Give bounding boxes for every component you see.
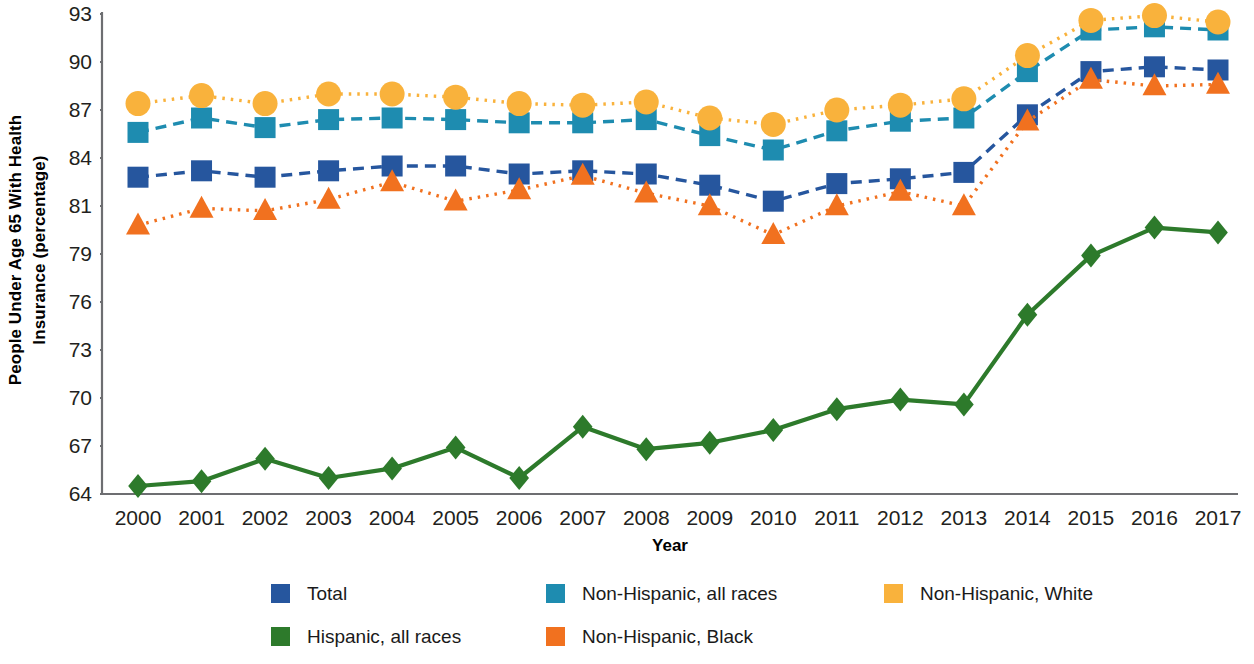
axis-lines bbox=[100, 12, 1238, 494]
series-line bbox=[138, 27, 1218, 150]
series-5 bbox=[126, 67, 1230, 244]
data-point-marker bbox=[382, 456, 402, 480]
data-point-marker bbox=[826, 173, 847, 194]
data-point-marker bbox=[253, 91, 278, 116]
series-line bbox=[138, 80, 1218, 235]
data-point-marker bbox=[445, 109, 466, 130]
y-tick-label: 67 bbox=[48, 435, 92, 456]
data-point-marker bbox=[128, 122, 149, 143]
data-point-marker bbox=[698, 193, 722, 215]
x-tick-label: 2007 bbox=[559, 503, 606, 533]
data-point-marker bbox=[444, 188, 468, 210]
data-point-marker bbox=[382, 108, 403, 129]
x-tick-label: 2006 bbox=[496, 503, 543, 533]
x-tick-label: 2000 bbox=[115, 503, 162, 533]
y-tick-label: 84 bbox=[48, 147, 92, 168]
data-point-marker bbox=[763, 191, 784, 212]
x-axis-title: Year bbox=[0, 536, 1254, 556]
data-point-marker bbox=[888, 93, 913, 118]
legend-item[interactable]: Total bbox=[271, 584, 347, 603]
data-point-marker bbox=[191, 160, 212, 181]
data-point-marker bbox=[1142, 3, 1167, 28]
legend-label: Non-Hispanic, Black bbox=[582, 627, 753, 646]
legend-swatch-icon bbox=[271, 584, 290, 603]
legend-item[interactable]: Non-Hispanic, all races bbox=[546, 584, 777, 603]
data-point-marker bbox=[573, 415, 593, 439]
data-point-marker bbox=[255, 117, 276, 138]
data-point-marker bbox=[192, 469, 212, 493]
x-axis-tick-labels: 2000200120022003200420052006200720082009… bbox=[100, 503, 1240, 537]
series-3 bbox=[126, 3, 1231, 137]
data-point-marker bbox=[128, 167, 149, 188]
chart-page: People Under Age 65 With Health Insuranc… bbox=[0, 0, 1254, 664]
data-point-marker bbox=[446, 436, 466, 460]
x-tick-label: 2010 bbox=[750, 503, 797, 533]
data-point-marker bbox=[636, 437, 656, 461]
data-point-marker bbox=[699, 175, 720, 196]
data-point-marker bbox=[953, 162, 974, 183]
y-tick-label: 64 bbox=[48, 483, 92, 504]
x-tick-label: 2009 bbox=[686, 503, 733, 533]
data-point-marker bbox=[316, 82, 341, 107]
x-tick-label: 2002 bbox=[242, 503, 289, 533]
y-tick-label: 93 bbox=[48, 3, 92, 24]
y-axis-tick-labels: 9390878481797673706764 bbox=[48, 0, 92, 500]
data-point-marker bbox=[255, 447, 275, 471]
y-tick-label: 70 bbox=[48, 387, 92, 408]
x-tick-label: 2011 bbox=[814, 503, 859, 533]
data-point-marker bbox=[570, 93, 595, 118]
y-tick-label: 81 bbox=[48, 195, 92, 216]
data-point-marker bbox=[634, 90, 659, 115]
data-point-marker bbox=[700, 431, 720, 455]
series-4 bbox=[128, 216, 1228, 498]
series-1 bbox=[128, 56, 1229, 211]
data-point-marker bbox=[697, 106, 722, 131]
data-point-marker bbox=[951, 86, 976, 111]
legend-item[interactable]: Non-Hispanic, White bbox=[884, 584, 1093, 603]
legend-swatch-icon bbox=[546, 627, 565, 646]
data-point-marker bbox=[826, 120, 847, 141]
legend-item[interactable]: Hispanic, all races bbox=[271, 627, 461, 646]
chart-legend: TotalNon-Hispanic, all racesNon-Hispanic… bbox=[0, 578, 1254, 660]
data-point-marker bbox=[763, 418, 783, 442]
x-tick-label: 2015 bbox=[1068, 503, 1115, 533]
data-point-marker bbox=[824, 98, 849, 123]
legend-swatch-icon bbox=[884, 584, 903, 603]
x-tick-label: 2008 bbox=[623, 503, 670, 533]
legend-swatch-icon bbox=[271, 627, 290, 646]
data-point-marker bbox=[1145, 216, 1165, 240]
data-point-marker bbox=[126, 91, 151, 116]
data-point-marker bbox=[191, 108, 212, 129]
legend-label: Total bbox=[307, 584, 347, 603]
x-tick-label: 2003 bbox=[305, 503, 352, 533]
data-point-marker bbox=[319, 466, 339, 490]
legend-label: Non-Hispanic, all races bbox=[582, 584, 777, 603]
y-tick-label: 87 bbox=[48, 99, 92, 120]
legend-swatch-icon bbox=[546, 584, 565, 603]
data-point-marker bbox=[445, 156, 466, 177]
data-point-marker bbox=[891, 388, 911, 412]
legend-label: Non-Hispanic, White bbox=[920, 584, 1093, 603]
data-point-marker bbox=[443, 85, 468, 110]
y-tick-label: 76 bbox=[48, 291, 92, 312]
data-point-marker bbox=[761, 112, 786, 137]
plot-area bbox=[100, 0, 1240, 500]
y-axis-title-line1: People Under Age 65 With Health bbox=[4, 115, 28, 386]
data-point-marker bbox=[827, 397, 847, 421]
x-tick-label: 2012 bbox=[877, 503, 924, 533]
legend-item[interactable]: Non-Hispanic, Black bbox=[546, 627, 753, 646]
chart-svg bbox=[100, 0, 1240, 500]
data-point-marker bbox=[189, 83, 214, 108]
data-point-marker bbox=[318, 109, 339, 130]
x-tick-label: 2001 bbox=[178, 503, 225, 533]
x-tick-label: 2013 bbox=[941, 503, 988, 533]
y-tick-label: 73 bbox=[48, 339, 92, 360]
series-line bbox=[138, 16, 1218, 125]
data-point-marker bbox=[255, 167, 276, 188]
data-point-marker bbox=[509, 466, 529, 490]
data-point-marker bbox=[380, 82, 405, 107]
legend-label: Hispanic, all races bbox=[307, 627, 461, 646]
y-tick-label: 79 bbox=[48, 243, 92, 264]
data-point-marker bbox=[190, 196, 214, 218]
x-axis-title-text: Year bbox=[652, 536, 688, 555]
